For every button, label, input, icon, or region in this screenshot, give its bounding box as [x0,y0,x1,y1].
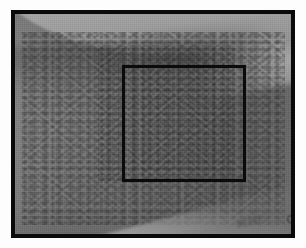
figure-root: MBIO UIM [0,0,306,248]
photo-frame: MBIO UIM [11,10,295,238]
region-of-interest-square [122,65,246,182]
photograph-image: MBIO UIM [15,14,291,234]
